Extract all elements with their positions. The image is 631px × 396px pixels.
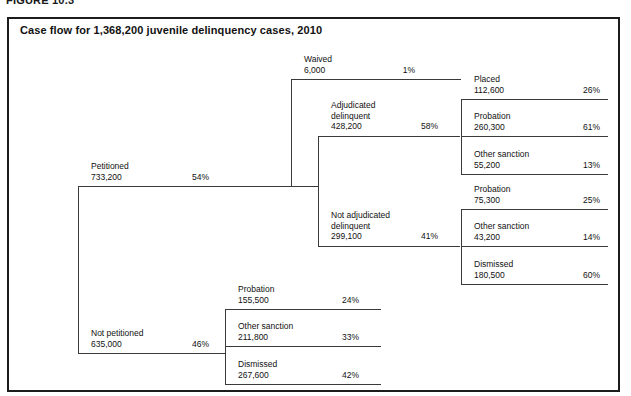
node-np-probation: Probation 155,500 24% bbox=[234, 284, 381, 309]
node-np-dismissed-value: 267,600 bbox=[238, 370, 381, 381]
node-nadj-other-pct: 14% bbox=[583, 232, 600, 243]
node-not-adjudicated-label: Not adjudicated bbox=[331, 210, 460, 221]
node-nadj-other: Other sanction 43,200 14% bbox=[470, 221, 608, 246]
node-adj-other-label: Other sanction bbox=[474, 149, 608, 160]
node-not-petitioned-label: Not petitioned bbox=[91, 328, 225, 339]
node-adj-other-pct: 13% bbox=[583, 160, 600, 171]
node-adjudicated-pct: 58% bbox=[421, 121, 438, 132]
page-title: Case flow for 1,368,200 juvenile delinqu… bbox=[20, 24, 322, 36]
node-petitioned-label: Petitioned bbox=[91, 161, 292, 172]
node-not-adjudicated-pct: 41% bbox=[421, 231, 438, 242]
node-np-dismissed-label: Dismissed bbox=[238, 359, 381, 370]
node-nadj-probation-pct: 25% bbox=[583, 195, 600, 206]
edge-nadj-other bbox=[461, 246, 608, 247]
node-not-adjudicated-value: 299,100 bbox=[331, 231, 460, 242]
edge-adj-probation bbox=[461, 136, 608, 137]
node-adj-placed: Placed 112,600 26% bbox=[470, 74, 608, 99]
edge-nadj-probation bbox=[461, 209, 608, 210]
edge-adj-other bbox=[461, 174, 608, 175]
node-nadj-dismissed-label: Dismissed bbox=[474, 259, 608, 270]
edge-waived bbox=[291, 79, 461, 80]
node-adjudicated: Adjudicated delinquent 428,200 58% bbox=[327, 100, 460, 136]
node-np-dismissed: Dismissed 267,600 42% bbox=[234, 359, 381, 384]
node-not-petitioned-pct: 46% bbox=[192, 339, 209, 350]
node-nadj-probation-label: Probation bbox=[474, 184, 608, 195]
edge-trunk-to-adj-spine bbox=[291, 186, 319, 187]
node-nadj-dismissed-pct: 60% bbox=[583, 270, 600, 281]
edge-np-other bbox=[225, 346, 381, 347]
edge-not-petitioned bbox=[78, 353, 225, 354]
node-nadj-dismissed: Dismissed 180,500 60% bbox=[470, 259, 608, 284]
node-waived-pct: 1% bbox=[403, 65, 415, 76]
node-petitioned: Petitioned 733,200 54% bbox=[87, 161, 292, 186]
node-adjudicated-label2: delinquent bbox=[331, 111, 460, 122]
node-np-dismissed-pct: 42% bbox=[342, 370, 359, 381]
edge-nadj-dismissed bbox=[461, 284, 608, 285]
node-not-petitioned: Not petitioned 635,000 46% bbox=[87, 328, 225, 353]
edge-not-adjudicated bbox=[318, 246, 460, 247]
edge-root-spine bbox=[78, 186, 79, 353]
node-adj-probation-label: Probation bbox=[474, 111, 608, 122]
node-adj-placed-label: Placed bbox=[474, 74, 608, 85]
figure-root: FIGURE 10.3 Case flow for 1,368,200 juve… bbox=[0, 0, 631, 396]
node-not-adjudicated: Not adjudicated delinquent 299,100 41% bbox=[327, 210, 460, 246]
node-np-probation-value: 155,500 bbox=[238, 295, 381, 306]
node-waived: Waived 6,000 1% bbox=[300, 54, 461, 79]
node-np-other-label: Other sanction bbox=[238, 321, 381, 332]
node-nadj-probation: Probation 75,300 25% bbox=[470, 184, 608, 209]
edge-adj-spine bbox=[318, 136, 319, 246]
node-adj-other: Other sanction 55,200 13% bbox=[470, 149, 608, 174]
node-petitioned-pct: 54% bbox=[192, 172, 209, 183]
edge-np-dismissed bbox=[225, 384, 381, 385]
node-adj-placed-pct: 26% bbox=[583, 85, 600, 96]
node-nadj-other-label: Other sanction bbox=[474, 221, 608, 232]
edge-adj-placed bbox=[461, 99, 608, 100]
edge-adjudicated bbox=[318, 136, 460, 137]
node-np-probation-label: Probation bbox=[238, 284, 381, 295]
node-adj-probation: Probation 260,300 61% bbox=[470, 111, 608, 136]
node-adjudicated-value: 428,200 bbox=[331, 121, 460, 132]
node-np-other: Other sanction 211,800 33% bbox=[234, 321, 381, 346]
node-adj-probation-pct: 61% bbox=[583, 122, 600, 133]
edge-petitioned bbox=[78, 186, 292, 187]
node-waived-label: Waived bbox=[304, 54, 461, 65]
node-waived-value: 6,000 bbox=[304, 65, 461, 76]
node-adjudicated-label: Adjudicated bbox=[331, 100, 460, 111]
node-np-probation-pct: 24% bbox=[342, 295, 359, 306]
edge-np-probation bbox=[225, 309, 381, 310]
node-not-adjudicated-label2: delinquent bbox=[331, 221, 460, 232]
figure-caption: FIGURE 10.3 bbox=[6, 0, 74, 6]
node-np-other-value: 211,800 bbox=[238, 332, 381, 343]
node-np-other-pct: 33% bbox=[342, 332, 359, 343]
